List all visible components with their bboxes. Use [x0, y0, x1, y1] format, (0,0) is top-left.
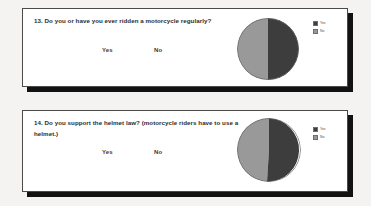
panel-shadow-bottom — [27, 87, 353, 92]
survey-panel-q13: 13. Do you or have you ever ridden a mot… — [22, 8, 348, 87]
legend-item-no[interactable]: No — [313, 135, 326, 140]
pie-graphic — [237, 118, 301, 182]
legend-label-yes: Yes — [320, 128, 326, 131]
legend-label-no: No — [320, 30, 324, 33]
survey-panel-q14: 14. Do you support the helmet law? (moto… — [22, 110, 348, 192]
pie-graphic — [237, 18, 299, 80]
legend-swatch-icon — [313, 21, 318, 26]
pie-slice-yes — [267, 118, 299, 182]
pie-slice-no — [237, 18, 268, 80]
answer-options-row: Yes No — [23, 47, 253, 59]
pie-chart-q14 — [237, 118, 301, 182]
legend-label-yes: Yes — [320, 22, 326, 25]
pie-chart-q13 — [237, 18, 299, 80]
legend-label-no: No — [320, 136, 324, 139]
legend-item-no[interactable]: No — [313, 29, 326, 34]
panel-shadow-right — [348, 115, 353, 197]
pie-slice-yes — [268, 18, 299, 80]
chart-legend: Yes No — [313, 21, 326, 34]
legend-item-yes[interactable]: Yes — [313, 21, 326, 26]
question-text: 13. Do you or have you ever ridden a mot… — [34, 16, 249, 27]
legend-swatch-icon — [313, 135, 318, 140]
answer-option-no[interactable]: No — [154, 47, 162, 53]
panel-shadow-bottom — [27, 192, 353, 197]
question-text: 14. Do you support the helmet law? (moto… — [34, 118, 249, 140]
survey-results-page: 13. Do you or have you ever ridden a mot… — [0, 0, 371, 206]
legend-swatch-icon — [313, 29, 318, 34]
legend-swatch-icon — [313, 127, 318, 132]
answer-option-yes[interactable]: Yes — [102, 149, 113, 155]
answer-option-yes[interactable]: Yes — [102, 47, 113, 53]
chart-legend: Yes No — [313, 127, 326, 140]
pie-slice-no — [237, 118, 269, 182]
panel-shadow-right — [348, 13, 353, 92]
legend-item-yes[interactable]: Yes — [313, 127, 326, 132]
answer-options-row: Yes No — [23, 149, 253, 161]
answer-option-no[interactable]: No — [154, 149, 162, 155]
